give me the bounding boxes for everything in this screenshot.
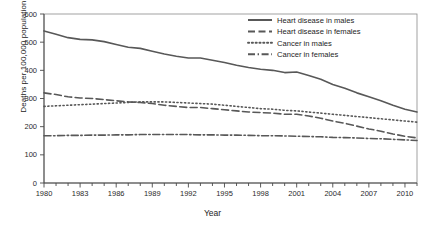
x-tick-label: 1980 [36,189,53,198]
y-tick-label: 100 [24,150,37,159]
y-axis-title: Deaths per 100,000 population [19,0,28,132]
x-tick-label: 1998 [252,189,269,198]
x-tick-label: 1995 [216,189,233,198]
x-axis-title: Year [0,208,425,218]
x-tick-label: 1986 [108,189,125,198]
series-line-3 [44,102,417,122]
y-tick-label: 0 [33,179,37,188]
legend-label-4: Cancer in females [277,50,338,59]
chart-canvas: 0100200300400500600 19801983198619891992… [0,0,425,226]
x-tick-label: 2004 [324,189,341,198]
series-line-4 [44,135,417,141]
chart-legend: Heart disease in malesHeart disease in f… [248,16,361,59]
x-tick-label: 1992 [180,189,197,198]
legend-label-1: Heart disease in males [277,16,354,25]
x-tick-label: 2010 [397,189,414,198]
x-tick-label: 2007 [361,189,378,198]
data-series-group [44,31,417,141]
x-axis-ticks: 1980198319861989199219951998200120042007… [36,183,417,198]
x-tick-label: 1989 [144,189,161,198]
x-tick-label: 1983 [72,189,89,198]
series-line-2 [44,93,417,138]
line-chart: Deaths per 100,000 population 0100200300… [0,0,425,226]
x-tick-label: 2001 [288,189,305,198]
legend-label-2: Heart disease in females [277,27,361,36]
legend-label-3: Cancer in males [277,39,332,48]
